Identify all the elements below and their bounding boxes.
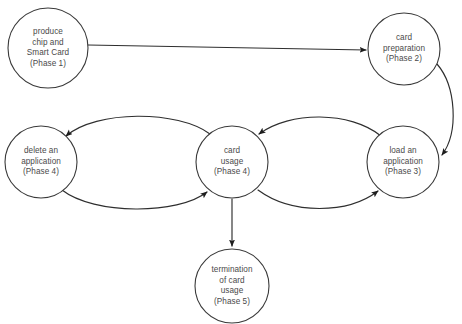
edge-usage-to-load <box>258 190 378 209</box>
node-layer <box>5 8 440 323</box>
node-usage[interactable] <box>196 126 268 198</box>
edge-load-to-usage <box>259 117 381 136</box>
node-produce[interactable] <box>8 8 88 88</box>
edge-preparation-to-load <box>437 64 453 155</box>
edge-delete-to-usage <box>62 190 207 209</box>
node-preparation[interactable] <box>368 13 440 85</box>
node-termination[interactable] <box>195 249 269 323</box>
diagram-svg <box>0 0 462 324</box>
node-load[interactable] <box>367 126 439 198</box>
node-delete[interactable] <box>5 126 77 198</box>
edge-produce-to-preparation <box>88 45 366 50</box>
edge-usage-to-delete <box>66 116 210 136</box>
diagram-canvas: produce chip and Smart Card (Phase 1)car… <box>0 0 462 324</box>
